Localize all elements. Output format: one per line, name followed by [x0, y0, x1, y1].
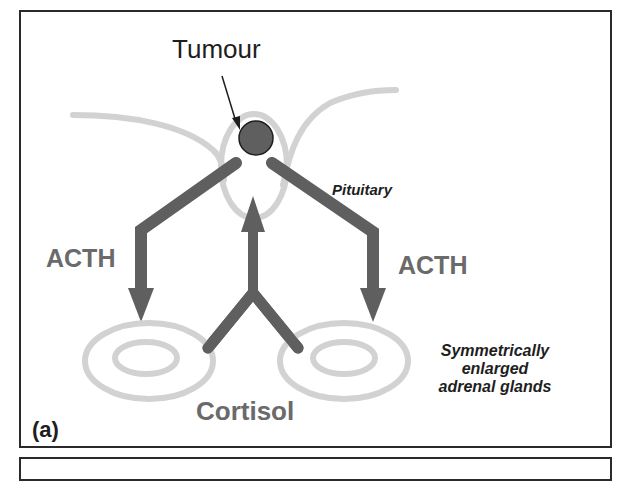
adrenal-caption-line-2: enlarged: [420, 360, 570, 378]
adrenal-glands-caption: Symmetrically enlarged adrenal glands: [420, 342, 570, 396]
adrenal-gland-left: [85, 323, 213, 399]
cortisol-label: Cortisol: [196, 398, 294, 424]
tumour-circle: [239, 121, 273, 155]
cortisol-branches-overlay: [208, 293, 298, 348]
acth-arrow-left: [128, 163, 236, 322]
acth-label-right: ACTH: [398, 253, 467, 278]
adrenal-caption-line-1: Symmetrically: [420, 342, 570, 360]
acth-label-left: ACTH: [46, 246, 115, 271]
pituitary-label: Pituitary: [332, 182, 392, 197]
tumour-pointer-arrow: [222, 76, 240, 130]
left-outline-curve: [73, 115, 224, 180]
panel-label: (a): [32, 419, 59, 441]
tumour-label: Tumour: [172, 36, 261, 62]
adrenal-gland-right: [280, 323, 408, 399]
adrenal-caption-line-3: adrenal glands: [420, 378, 570, 396]
right-outline-curve: [283, 90, 396, 185]
